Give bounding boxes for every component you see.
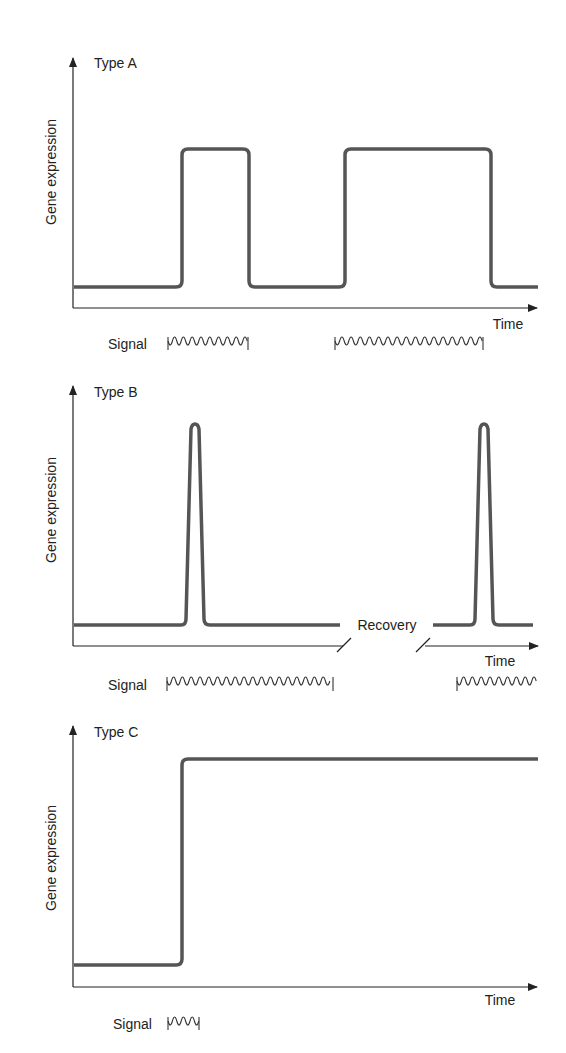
panel-type-c: Type C Gene expression Time Signal xyxy=(43,724,538,1032)
expression-curve xyxy=(74,424,340,625)
panel-title: Type C xyxy=(94,724,138,740)
signal-wave xyxy=(457,677,536,691)
panel-type-a: Type A Gene expression Time Signal xyxy=(43,55,538,352)
axis-break-mark xyxy=(416,638,430,652)
y-axis-label: Gene expression xyxy=(43,457,59,563)
signal-wave xyxy=(167,677,333,691)
signal-label: Signal xyxy=(108,336,147,352)
panel-title: Type B xyxy=(94,384,138,400)
expression-curve xyxy=(74,149,538,287)
expression-curve-after-recovery xyxy=(433,424,533,625)
x-axis-label: Time xyxy=(493,316,524,332)
signal-wave xyxy=(335,337,483,350)
y-axis-label: Gene expression xyxy=(43,805,59,911)
x-axis-label: Time xyxy=(485,653,516,669)
signal-label: Signal xyxy=(108,677,147,693)
diagram-canvas: Type A Gene expression Time Signal Type … xyxy=(0,0,566,1053)
y-axis-label: Gene expression xyxy=(43,119,59,225)
signal-label: Signal xyxy=(113,1016,152,1032)
panel-type-b: Type B Gene expression Time Recovery Sig… xyxy=(43,384,538,693)
recovery-label: Recovery xyxy=(357,617,416,633)
signal-wave xyxy=(168,1017,199,1030)
signal-wave xyxy=(168,337,248,350)
x-axis-label: Time xyxy=(485,992,516,1008)
axis-break-mark xyxy=(337,638,351,652)
expression-curve xyxy=(74,759,538,965)
panel-title: Type A xyxy=(94,55,137,71)
